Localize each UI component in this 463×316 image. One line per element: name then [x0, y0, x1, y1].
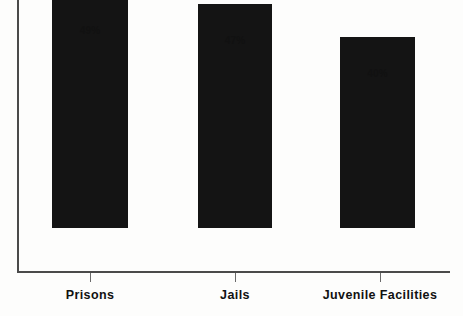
x-axis-label-juvenile-facilities: Juvenile Facilities [307, 288, 453, 302]
x-axis-label-prisons: Prisons [40, 288, 140, 302]
bar-juvenile-facilities[interactable] [340, 37, 415, 228]
x-axis-tick-jails [235, 273, 236, 282]
value-label-jails: 47% [198, 35, 272, 46]
x-axis-tick-prisons [90, 273, 91, 282]
value-label-juvenile-facilities: 40% [340, 68, 415, 79]
plot-area: 49% 47% 40% [0, 0, 463, 272]
value-label-prisons: 49% [52, 25, 128, 36]
x-axis-label-jails: Jails [185, 288, 285, 302]
bar-chart: 49% 47% 40% Prisons Jails Juvenile Facil… [0, 0, 463, 316]
x-axis-tick-juvenile-facilities [380, 273, 381, 282]
y-axis-line [17, 0, 19, 273]
x-axis-line [17, 271, 450, 273]
